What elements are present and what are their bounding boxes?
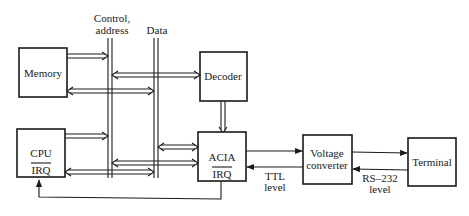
svg-text:ACIA: ACIA xyxy=(209,151,236,163)
memory-block: Memory xyxy=(19,48,67,97)
svg-text:level: level xyxy=(369,183,390,195)
rs232-level-label: RS–232 level xyxy=(362,172,397,195)
data-bus-acia-arrow xyxy=(158,143,198,151)
cpu-to-address-bus-arrow xyxy=(65,132,108,140)
svg-text:converter: converter xyxy=(306,159,348,171)
svg-text:Memory: Memory xyxy=(24,67,62,79)
control-address-bus xyxy=(108,38,112,178)
terminal-block: Terminal xyxy=(408,138,456,186)
svg-text:Control,: Control, xyxy=(94,12,131,24)
svg-text:level: level xyxy=(264,181,285,193)
irq-line xyxy=(39,180,221,199)
voltage-converter-block: Voltage converter xyxy=(303,135,352,184)
cpu-data-bus-arrow xyxy=(65,168,154,176)
address-bus-acia-arrow xyxy=(112,159,198,167)
memory-to-address-bus-arrow xyxy=(67,52,108,60)
svg-text:address: address xyxy=(96,24,129,36)
acia-block: ACIA IRQ xyxy=(198,132,246,181)
cpu-block: CPU IRQ xyxy=(17,129,65,177)
data-bus-label: Data xyxy=(147,24,168,36)
control-address-bus-label: Control, address xyxy=(94,12,131,36)
decoder-block: Decoder xyxy=(200,52,247,101)
data-bus xyxy=(154,38,158,178)
svg-text:IRQ: IRQ xyxy=(32,164,51,176)
svg-text:Voltage: Voltage xyxy=(310,147,344,159)
address-bus-decoder-arrow xyxy=(112,71,200,79)
svg-text:Terminal: Terminal xyxy=(412,156,452,168)
svg-text:IRQ: IRQ xyxy=(213,168,232,180)
acia-system-diagram: Control, address Data Memory Decoder xyxy=(0,0,469,216)
converter-to-terminal-arrow xyxy=(352,152,407,153)
ttl-level-label: TTL level xyxy=(264,170,285,193)
terminal-to-converter-arrow xyxy=(353,169,408,170)
svg-text:Decoder: Decoder xyxy=(204,70,242,82)
decoder-to-acia-arrow xyxy=(219,101,227,133)
svg-text:CPU: CPU xyxy=(30,147,51,159)
memory-data-bus-arrow xyxy=(67,87,154,95)
